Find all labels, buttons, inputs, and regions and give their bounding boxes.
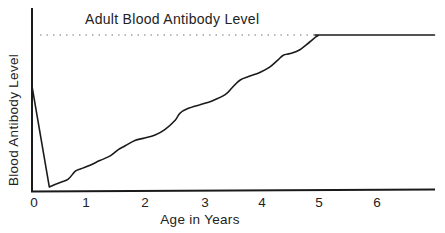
x-tick-3: 3 (201, 195, 209, 210)
x-tick-1: 1 (82, 195, 90, 210)
x-tick-0: 0 (30, 195, 38, 210)
x-tick-4: 4 (258, 195, 266, 210)
x-axis (31, 190, 435, 192)
x-tick-5: 5 (315, 195, 323, 210)
x-tick-2: 2 (141, 195, 149, 210)
adult-level-annotation: Adult Blood Antibody Level (85, 11, 259, 27)
antibody-level-curve (32, 35, 435, 187)
y-axis-label: Blood Antibody Level (6, 54, 21, 186)
x-axis-label: Age in Years (160, 212, 239, 227)
x-tick-6: 6 (373, 195, 381, 210)
